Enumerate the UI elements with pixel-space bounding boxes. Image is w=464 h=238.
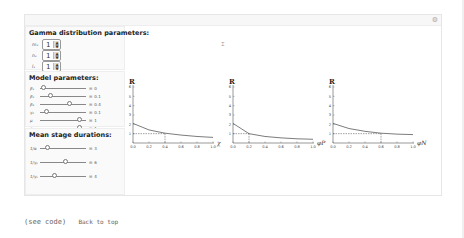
expand-plus-icon[interactable]: ⊞ xyxy=(89,160,92,165)
spinner-value: 1 xyxy=(46,63,50,71)
slider-thumb[interactable] xyxy=(44,109,49,114)
gear-icon[interactable]: ⚙ xyxy=(432,15,438,25)
slider-track[interactable] xyxy=(40,96,86,97)
svg-text:5: 5 xyxy=(229,95,231,99)
svg-text:φP: φP xyxy=(317,139,326,147)
model-title: Model parameters: xyxy=(29,74,121,82)
expand-plus-icon[interactable]: ⊞ xyxy=(89,102,92,107)
svg-text:0.8: 0.8 xyxy=(194,145,200,149)
gamma-title: Gamma distribution parameters: xyxy=(29,29,121,37)
svg-text:1.0: 1.0 xyxy=(310,145,316,149)
slider-value: 6 xyxy=(94,160,97,165)
param-spinner[interactable]: 1▲▼ xyxy=(42,50,61,61)
slider-label: γ₂ xyxy=(30,110,40,115)
slider-thumb[interactable] xyxy=(67,101,72,106)
slider-label: 1/α xyxy=(30,146,40,151)
slider-row: β₁⊞0 xyxy=(30,84,124,92)
slider-row: β₂⊞0.1 xyxy=(30,92,124,100)
expand-plus-icon[interactable]: ⊞ xyxy=(89,94,92,99)
expand-plus-icon[interactable]: ⊞ xyxy=(89,146,92,151)
expand-plus-icon[interactable]: ⊞ xyxy=(89,110,92,115)
gamma-param-row: nₓ1▲▼ xyxy=(32,50,124,61)
slider-track[interactable] xyxy=(40,176,86,177)
slider-value: 1 xyxy=(94,118,97,123)
frame-toolbar: ⚙ xyxy=(25,15,441,26)
chart-r0-vs-chi: R1234560.00.20.40.60.81.0χ xyxy=(127,75,227,155)
svg-text:3: 3 xyxy=(229,113,231,117)
slider-thumb[interactable] xyxy=(52,173,57,178)
gamma-param-row: mₓ1▲▼ xyxy=(32,39,124,50)
param-label: lₓ xyxy=(32,64,42,69)
param-spinner[interactable]: 1▲▼ xyxy=(42,39,61,50)
svg-text:0.2: 0.2 xyxy=(146,145,152,149)
param-label: nₓ xyxy=(32,53,42,58)
slider-label: β₂ xyxy=(30,94,40,99)
chart-r0-vs-phiP: R1234560.00.20.40.60.81.0φP xyxy=(227,75,327,155)
svg-text:0.4: 0.4 xyxy=(262,145,268,149)
slider-thumb[interactable] xyxy=(48,93,53,98)
durations-panel: Mean stage durations: 1/α⊞31/γₚ⊞61/γₙ⊞4 xyxy=(25,128,125,195)
slider-value: 3 xyxy=(94,146,97,151)
svg-text:1: 1 xyxy=(129,132,131,136)
expand-plus-icon[interactable]: ⊞ xyxy=(89,86,92,91)
slider-track[interactable] xyxy=(40,120,86,121)
svg-text:1.0: 1.0 xyxy=(410,145,416,149)
svg-text:4: 4 xyxy=(129,104,132,108)
slider-label: β₁ xyxy=(30,86,40,91)
slider-row: β₃⊞0.4 xyxy=(30,100,124,108)
svg-text:0.0: 0.0 xyxy=(130,145,136,149)
spinner-arrows-icon[interactable]: ▲▼ xyxy=(53,52,59,59)
slider-thumb[interactable] xyxy=(63,159,68,164)
svg-text:2: 2 xyxy=(229,123,231,127)
slider-row: γ₂⊞0.1 xyxy=(30,108,124,116)
slider-row: 1/γₚ⊞6 xyxy=(30,155,124,169)
svg-text:0.4: 0.4 xyxy=(362,145,368,149)
svg-text:χ: χ xyxy=(216,139,221,147)
svg-text:φN: φN xyxy=(417,139,427,147)
back-to-top-link[interactable]: Back to top xyxy=(78,218,118,225)
svg-text:1: 1 xyxy=(229,132,231,136)
gamma-panel: Gamma distribution parameters: mₓ1▲▼nₓ1▲… xyxy=(25,26,125,70)
svg-text:5: 5 xyxy=(329,95,331,99)
svg-text:0.6: 0.6 xyxy=(378,145,384,149)
svg-text:0.8: 0.8 xyxy=(294,145,300,149)
slider-track[interactable] xyxy=(40,88,86,89)
slider-track[interactable] xyxy=(40,112,86,113)
slider-row: 1/γₙ⊞4 xyxy=(30,169,124,183)
svg-text:0.6: 0.6 xyxy=(278,145,284,149)
slider-value: 0 xyxy=(94,86,97,91)
manipulate-frame: ⚙ Gamma distribution parameters: mₓ1▲▼nₓ… xyxy=(24,14,442,196)
svg-text:1: 1 xyxy=(329,132,331,136)
slider-row: 1/α⊞3 xyxy=(30,141,124,155)
spinner-value: 1 xyxy=(46,52,50,60)
slider-label: μ xyxy=(30,118,40,123)
mouse-cursor-icon: ⌶ xyxy=(221,40,225,48)
param-label: mₓ xyxy=(32,42,42,47)
slider-track[interactable] xyxy=(40,148,86,149)
svg-text:0.8: 0.8 xyxy=(394,145,400,149)
slider-value: 4 xyxy=(94,174,97,179)
slider-thumb[interactable] xyxy=(77,117,82,122)
slider-label: 1/γₙ xyxy=(30,174,40,179)
svg-text:1.0: 1.0 xyxy=(210,145,216,149)
svg-text:4: 4 xyxy=(329,104,332,108)
slider-value: 0.1 xyxy=(94,110,100,115)
slider-track[interactable] xyxy=(40,104,86,105)
slider-value: 0.4 xyxy=(94,102,100,107)
expand-plus-icon[interactable]: ⊞ xyxy=(89,174,92,179)
see-code-link[interactable]: (see code) xyxy=(24,218,66,226)
svg-text:0.0: 0.0 xyxy=(330,145,336,149)
svg-text:0.0: 0.0 xyxy=(230,145,236,149)
durations-title: Mean stage durations: xyxy=(29,131,121,139)
svg-text:0.6: 0.6 xyxy=(178,145,184,149)
expand-plus-icon[interactable]: ⊞ xyxy=(89,118,92,123)
slider-track[interactable] xyxy=(40,162,86,163)
footer: (see code) Back to top xyxy=(24,218,118,226)
svg-text:0.2: 0.2 xyxy=(246,145,252,149)
spinner-arrows-icon[interactable]: ▲▼ xyxy=(53,63,59,70)
slider-thumb[interactable] xyxy=(45,145,50,150)
svg-text:3: 3 xyxy=(329,113,331,117)
slider-value: 0.1 xyxy=(94,94,100,99)
slider-thumb[interactable] xyxy=(41,85,46,90)
spinner-arrows-icon[interactable]: ▲▼ xyxy=(53,41,59,48)
